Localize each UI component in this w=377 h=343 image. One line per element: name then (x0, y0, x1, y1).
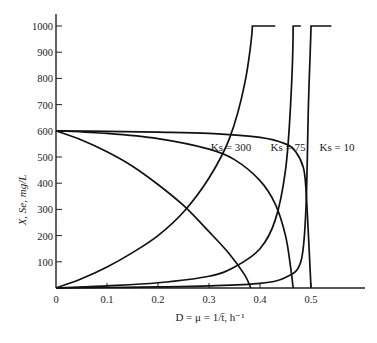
curves (56, 26, 331, 288)
curve-label: Ks = 300 (211, 141, 252, 153)
curve-label: Ks = 75 (271, 141, 306, 153)
series-line (56, 26, 301, 288)
x-tick-label: 0 (53, 294, 58, 305)
axes: 00.10.20.30.40.5100200300400500600700800… (32, 14, 365, 305)
y-tick-label: 300 (37, 204, 53, 215)
y-tick-label: 1000 (32, 21, 53, 32)
x-tick-label: 0.5 (304, 294, 317, 305)
annotations: Ks = 300Ks = 75Ks = 10 (211, 141, 355, 153)
y-tick-label: 800 (37, 73, 53, 84)
y-tick-label: 400 (37, 178, 53, 189)
x-tick-label: 0.1 (100, 294, 113, 305)
y-tick-label: 700 (37, 100, 53, 111)
series-line (56, 26, 275, 288)
series-line (56, 131, 293, 288)
y-tick-label: 100 (37, 257, 53, 268)
y-axis-label: X, Se, mg/L (16, 175, 28, 227)
y-tick-label: 900 (37, 47, 53, 58)
y-tick-label: 500 (37, 152, 53, 163)
series-line (56, 26, 331, 288)
x-tick-label: 0.3 (202, 294, 215, 305)
x-tick-label: 0.4 (253, 294, 267, 305)
x-tick-label: 0.2 (151, 294, 164, 305)
y-tick-label: 600 (37, 126, 53, 137)
curve-label: Ks = 10 (320, 141, 355, 153)
x-axis-label: D = μ = 1/t̄, h⁻¹ (175, 311, 244, 323)
y-tick-label: 200 (37, 231, 53, 242)
chart: 00.10.20.30.40.5100200300400500600700800… (0, 0, 377, 343)
series-line (56, 131, 311, 288)
